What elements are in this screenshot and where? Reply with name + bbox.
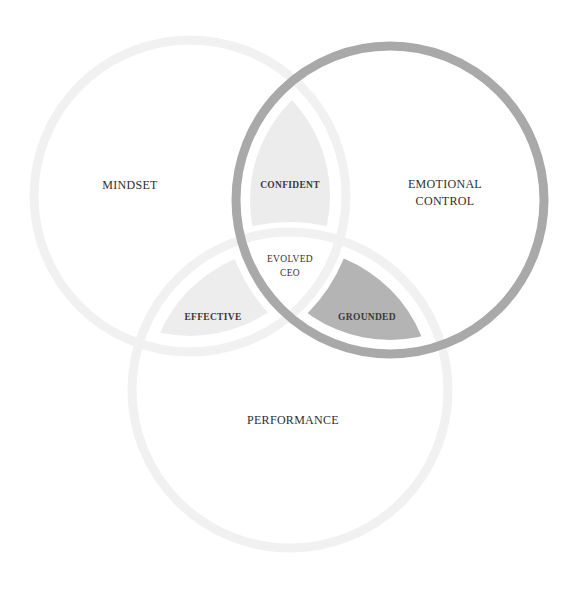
label-evolved: EVOLVED [267,252,313,266]
label-emotional-control: EMOTIONAL CONTROL [408,176,482,210]
label-confident: CONFIDENT [260,178,320,192]
label-evolved-ceo: EVOLVED CEO [267,252,313,280]
label-grounded: GROUNDED [338,310,396,324]
label-mindset: MINDSET [102,177,157,194]
label-effective: EFFECTIVE [184,310,241,324]
venn-diagram [0,0,586,595]
label-emotional-line2: CONTROL [408,193,482,210]
label-emotional-line1: EMOTIONAL [408,176,482,193]
label-performance: PERFORMANCE [247,412,339,429]
label-ceo: CEO [267,266,313,280]
